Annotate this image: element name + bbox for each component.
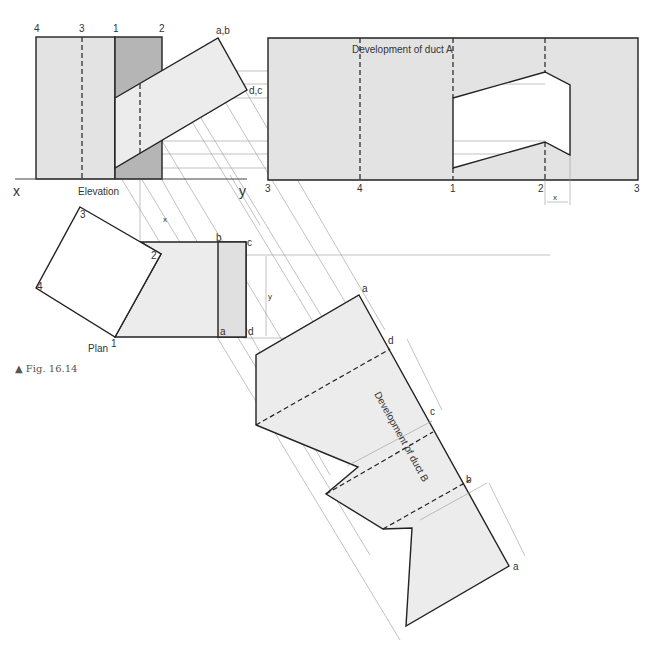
x-label: x	[13, 183, 20, 199]
label-3: 3	[79, 23, 85, 34]
label-2: 2	[159, 23, 165, 34]
dev-b-label-d: d	[388, 335, 394, 346]
plan-label-d: d	[248, 326, 254, 337]
dev-b-label-a-top: a	[362, 283, 368, 294]
y-label: y	[239, 183, 246, 199]
plan-title: Plan	[88, 343, 108, 354]
duct-a-elevation	[36, 37, 115, 179]
plan-label-1: 1	[111, 338, 117, 349]
dev-a-label-3-right: 3	[634, 183, 640, 194]
label-4: 4	[34, 23, 40, 34]
plan-label-c: c	[247, 237, 252, 248]
development-a-title: Development of duct A	[352, 44, 453, 55]
dev-a-label-1: 1	[450, 183, 456, 194]
duct-drawing: 4 3 1 2 a,b d,c x y Elevation Developmen…	[0, 0, 655, 645]
plan-view: 3 2 4 1 b c a d y x Plan	[36, 207, 272, 354]
figure-caption: ▲ Fig. 16.14	[15, 363, 77, 374]
development-b: a d c b a Development of duct B	[256, 283, 525, 626]
plan-label-b: b	[216, 232, 222, 243]
label-ab: a,b	[216, 25, 230, 36]
plan-label-4: 4	[37, 281, 43, 292]
label-dc: d,c	[249, 85, 262, 96]
dev-b-label-c: c	[430, 406, 435, 417]
plan-dim-x: x	[163, 215, 167, 224]
dev-a-label-4: 4	[357, 183, 363, 194]
dev-b-label-b: b	[466, 474, 472, 485]
elevation-title: Elevation	[78, 186, 119, 197]
elevation-view: 4 3 1 2 a,b d,c x y Elevation	[13, 23, 262, 199]
plan-label-2: 2	[151, 250, 157, 261]
dev-b-label-a-bottom: a	[513, 561, 519, 572]
development-a: Development of duct A 3 4 1 2 3 x	[265, 38, 640, 205]
dev-a-label-2: 2	[538, 183, 544, 194]
plan-label-3: 3	[80, 209, 86, 220]
dim-x: x	[553, 193, 557, 202]
plan-label-a: a	[220, 326, 226, 337]
label-1: 1	[113, 23, 119, 34]
dev-a-label-3-left: 3	[265, 183, 271, 194]
plan-dim-y: y	[268, 292, 272, 301]
